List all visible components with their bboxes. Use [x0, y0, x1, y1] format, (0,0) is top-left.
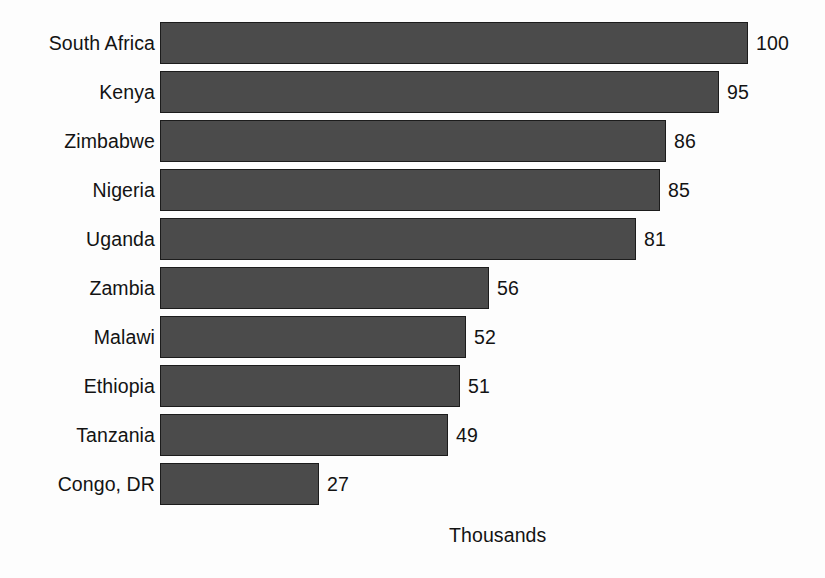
category-label: South Africa	[49, 19, 155, 68]
value-label: 100	[756, 19, 789, 68]
bar-row: Uganda 81	[0, 215, 825, 264]
bar-chart: South Africa 100 Kenya 95 Zimbabwe 86 Ni…	[0, 0, 825, 578]
category-label: Zimbabwe	[64, 117, 155, 166]
bar-row: Kenya 95	[0, 68, 825, 117]
value-label: 27	[327, 460, 349, 509]
value-label: 81	[644, 215, 666, 264]
axis-caption: Thousands	[449, 524, 546, 547]
value-label: 56	[497, 264, 519, 313]
category-label: Tanzania	[76, 411, 155, 460]
bar-row: Congo, DR 27	[0, 460, 825, 509]
bar	[160, 365, 460, 407]
bar	[160, 120, 666, 162]
bar	[160, 169, 660, 211]
bar-row: Tanzania 49	[0, 411, 825, 460]
category-label: Kenya	[99, 68, 155, 117]
category-label: Zambia	[89, 264, 155, 313]
value-label: 49	[456, 411, 478, 460]
bar-row: South Africa 100	[0, 19, 825, 68]
category-label: Malawi	[94, 313, 155, 362]
bar-row: Ethiopia 51	[0, 362, 825, 411]
value-label: 51	[468, 362, 490, 411]
bar-row: Zambia 56	[0, 264, 825, 313]
bar	[160, 463, 319, 505]
bar	[160, 71, 719, 113]
bar	[160, 316, 466, 358]
bar	[160, 218, 636, 260]
category-label: Congo, DR	[58, 460, 155, 509]
value-label: 85	[668, 166, 690, 215]
bar	[160, 22, 748, 64]
value-label: 52	[474, 313, 496, 362]
value-label: 95	[727, 68, 749, 117]
bar-row: Malawi 52	[0, 313, 825, 362]
plot-area: South Africa 100 Kenya 95 Zimbabwe 86 Ni…	[0, 0, 825, 520]
value-label: 86	[674, 117, 696, 166]
bar	[160, 267, 489, 309]
bar	[160, 414, 448, 456]
bar-row: Zimbabwe 86	[0, 117, 825, 166]
bar-row: Nigeria 85	[0, 166, 825, 215]
category-label: Uganda	[86, 215, 155, 264]
category-label: Nigeria	[93, 166, 155, 215]
category-label: Ethiopia	[84, 362, 155, 411]
